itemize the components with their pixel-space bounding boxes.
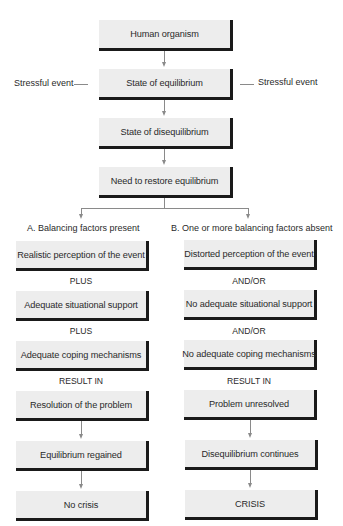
node-label: No adequate situational support	[186, 299, 313, 309]
node-crisis: CRISIS	[185, 490, 318, 520]
node-label: Equilibrium regained	[40, 450, 122, 460]
node-adequate-coping-mechanisms: Adequate coping mechanisms	[16, 341, 149, 371]
arrow-down-icon	[79, 214, 83, 219]
node-label: Distorted perception of the event	[184, 249, 314, 259]
node-label: Human organism	[130, 29, 199, 39]
node-label: Problem unresolved	[209, 399, 289, 409]
stressful-event-left: Stressful event	[14, 78, 74, 88]
node-human-organism: Human organism	[99, 20, 233, 51]
node-state-of-equilibrium: State of equilibrium	[99, 69, 233, 100]
stressful-event-right-line	[240, 84, 254, 85]
node-equilibrium-regained: Equilibrium regained	[16, 441, 149, 471]
connector-plus: PLUS	[16, 326, 146, 336]
node-label: Adequate situational support	[24, 300, 138, 310]
arrow-down-icon	[248, 433, 252, 438]
connector-result-in: RESULT IN	[16, 376, 146, 386]
node-label: Resolution of the problem	[30, 400, 132, 410]
connector-and-or: AND/OR	[184, 276, 314, 286]
node-label: Disequilibrium continues	[201, 449, 298, 459]
branch-a-heading: A. Balancing factors present	[27, 223, 140, 233]
branch-b-heading: B. One or more balancing factors absent	[171, 223, 333, 233]
node-disequilibrium-continues: Disequilibrium continues	[185, 440, 318, 470]
node-no-adequate-coping-mechanisms: No adequate coping mechanisms	[184, 340, 317, 370]
stressful-event-left-line	[74, 84, 88, 85]
node-adequate-situational-support: Adequate situational support	[16, 291, 149, 321]
node-label: State of equilibrium	[126, 78, 203, 88]
node-label: State of disequilibrium	[120, 127, 208, 137]
connector-line	[250, 470, 251, 484]
arrow-down-icon	[162, 111, 166, 116]
node-label: No crisis	[64, 500, 98, 510]
node-need-to-restore-equilibrium: Need to restore equilibrium	[99, 167, 233, 198]
arrow-down-icon	[79, 434, 83, 439]
connector-line	[250, 420, 251, 434]
connector-plus: PLUS	[16, 276, 146, 286]
arrow-down-icon	[246, 214, 250, 219]
node-realistic-perception: Realistic perception of the event	[16, 241, 149, 271]
node-no-crisis: No crisis	[16, 491, 149, 521]
node-state-of-disequilibrium: State of disequilibrium	[99, 118, 233, 149]
arrow-down-icon	[79, 484, 83, 489]
node-label: CRISIS	[235, 499, 265, 509]
connector-line	[164, 198, 165, 208]
arrow-down-icon	[162, 160, 166, 165]
arrow-down-icon	[162, 62, 166, 67]
node-resolution-of-problem: Resolution of the problem	[16, 391, 149, 421]
node-label: Need to restore equilibrium	[111, 176, 219, 186]
branch-split-line	[81, 208, 249, 209]
node-problem-unresolved: Problem unresolved	[184, 390, 317, 420]
node-label: Realistic perception of the event	[17, 250, 144, 260]
node-label: No adequate coping mechanisms	[182, 349, 315, 359]
node-no-adequate-situational-support: No adequate situational support	[184, 290, 317, 320]
connector-result-in: RESULT IN	[184, 376, 314, 386]
stressful-event-right: Stressful event	[258, 77, 318, 87]
arrow-down-icon	[248, 483, 252, 488]
connector-line	[81, 471, 82, 485]
connector-line	[81, 421, 82, 435]
node-distorted-perception: Distorted perception of the event	[184, 240, 317, 270]
node-label: Adequate coping mechanisms	[21, 350, 142, 360]
connector-and-or: AND/OR	[184, 326, 314, 336]
